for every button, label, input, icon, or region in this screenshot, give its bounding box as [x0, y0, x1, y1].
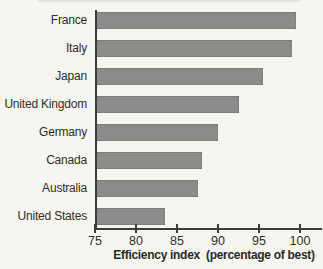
x-tick: [217, 224, 219, 233]
bar: [96, 124, 218, 141]
x-tick: [94, 224, 96, 233]
x-axis-title: Efficiency index (percentage of best): [105, 248, 323, 262]
bar: [96, 40, 292, 57]
efficiency-bar-chart: FranceItalyJapanUnited KingdomGermanyCan…: [0, 0, 323, 269]
category-label: Japan: [0, 69, 87, 84]
bar: [96, 152, 202, 169]
bar: [96, 68, 263, 85]
category-label: United States: [0, 209, 87, 224]
bar: [96, 208, 165, 225]
x-tick-label: 75: [80, 234, 110, 248]
category-label: Australia: [0, 181, 87, 196]
scan-artifact: [38, 0, 300, 2]
x-tick-label: 95: [244, 234, 274, 248]
bar: [96, 180, 198, 197]
x-tick-label: 90: [203, 234, 233, 248]
x-tick: [135, 224, 137, 233]
category-label: France: [0, 13, 87, 28]
category-label: United Kingdom: [0, 97, 87, 112]
category-label: Germany: [0, 125, 87, 140]
category-label: Canada: [0, 153, 87, 168]
y-axis-line: [95, 10, 97, 230]
x-tick-label: 80: [121, 234, 151, 248]
x-tick: [176, 224, 178, 233]
bar: [96, 96, 239, 113]
x-tick-label: 85: [162, 234, 192, 248]
x-tick-label: 100: [285, 234, 315, 248]
bar: [96, 12, 296, 29]
category-label: Italy: [0, 41, 87, 56]
x-axis-line: [95, 228, 322, 230]
x-tick: [258, 224, 260, 233]
x-tick: [299, 224, 301, 233]
